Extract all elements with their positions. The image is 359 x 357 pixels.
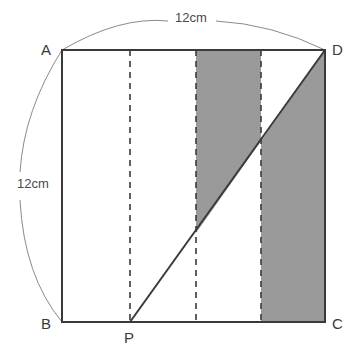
geometry-canvas <box>0 0 359 357</box>
vertex-label-C: C <box>332 316 343 331</box>
vertex-label-D: D <box>332 42 343 57</box>
geometry-figure: A B C D P 12cm 12cm <box>0 0 359 357</box>
shaded-band-below-diagonal <box>261 50 325 322</box>
top-dimension-arc-right <box>216 21 325 50</box>
point-label-P: P <box>124 330 134 345</box>
dimension-label-top: 12cm <box>172 10 210 25</box>
left-dimension-arc-top <box>20 50 62 172</box>
top-dimension-arc-left <box>62 20 168 50</box>
dimension-label-left: 12cm <box>14 176 52 191</box>
left-dimension-arc-bottom <box>20 200 62 322</box>
vertex-label-A: A <box>41 42 51 57</box>
vertex-label-B: B <box>41 316 51 331</box>
shaded-band-above-diagonal <box>196 50 261 233</box>
